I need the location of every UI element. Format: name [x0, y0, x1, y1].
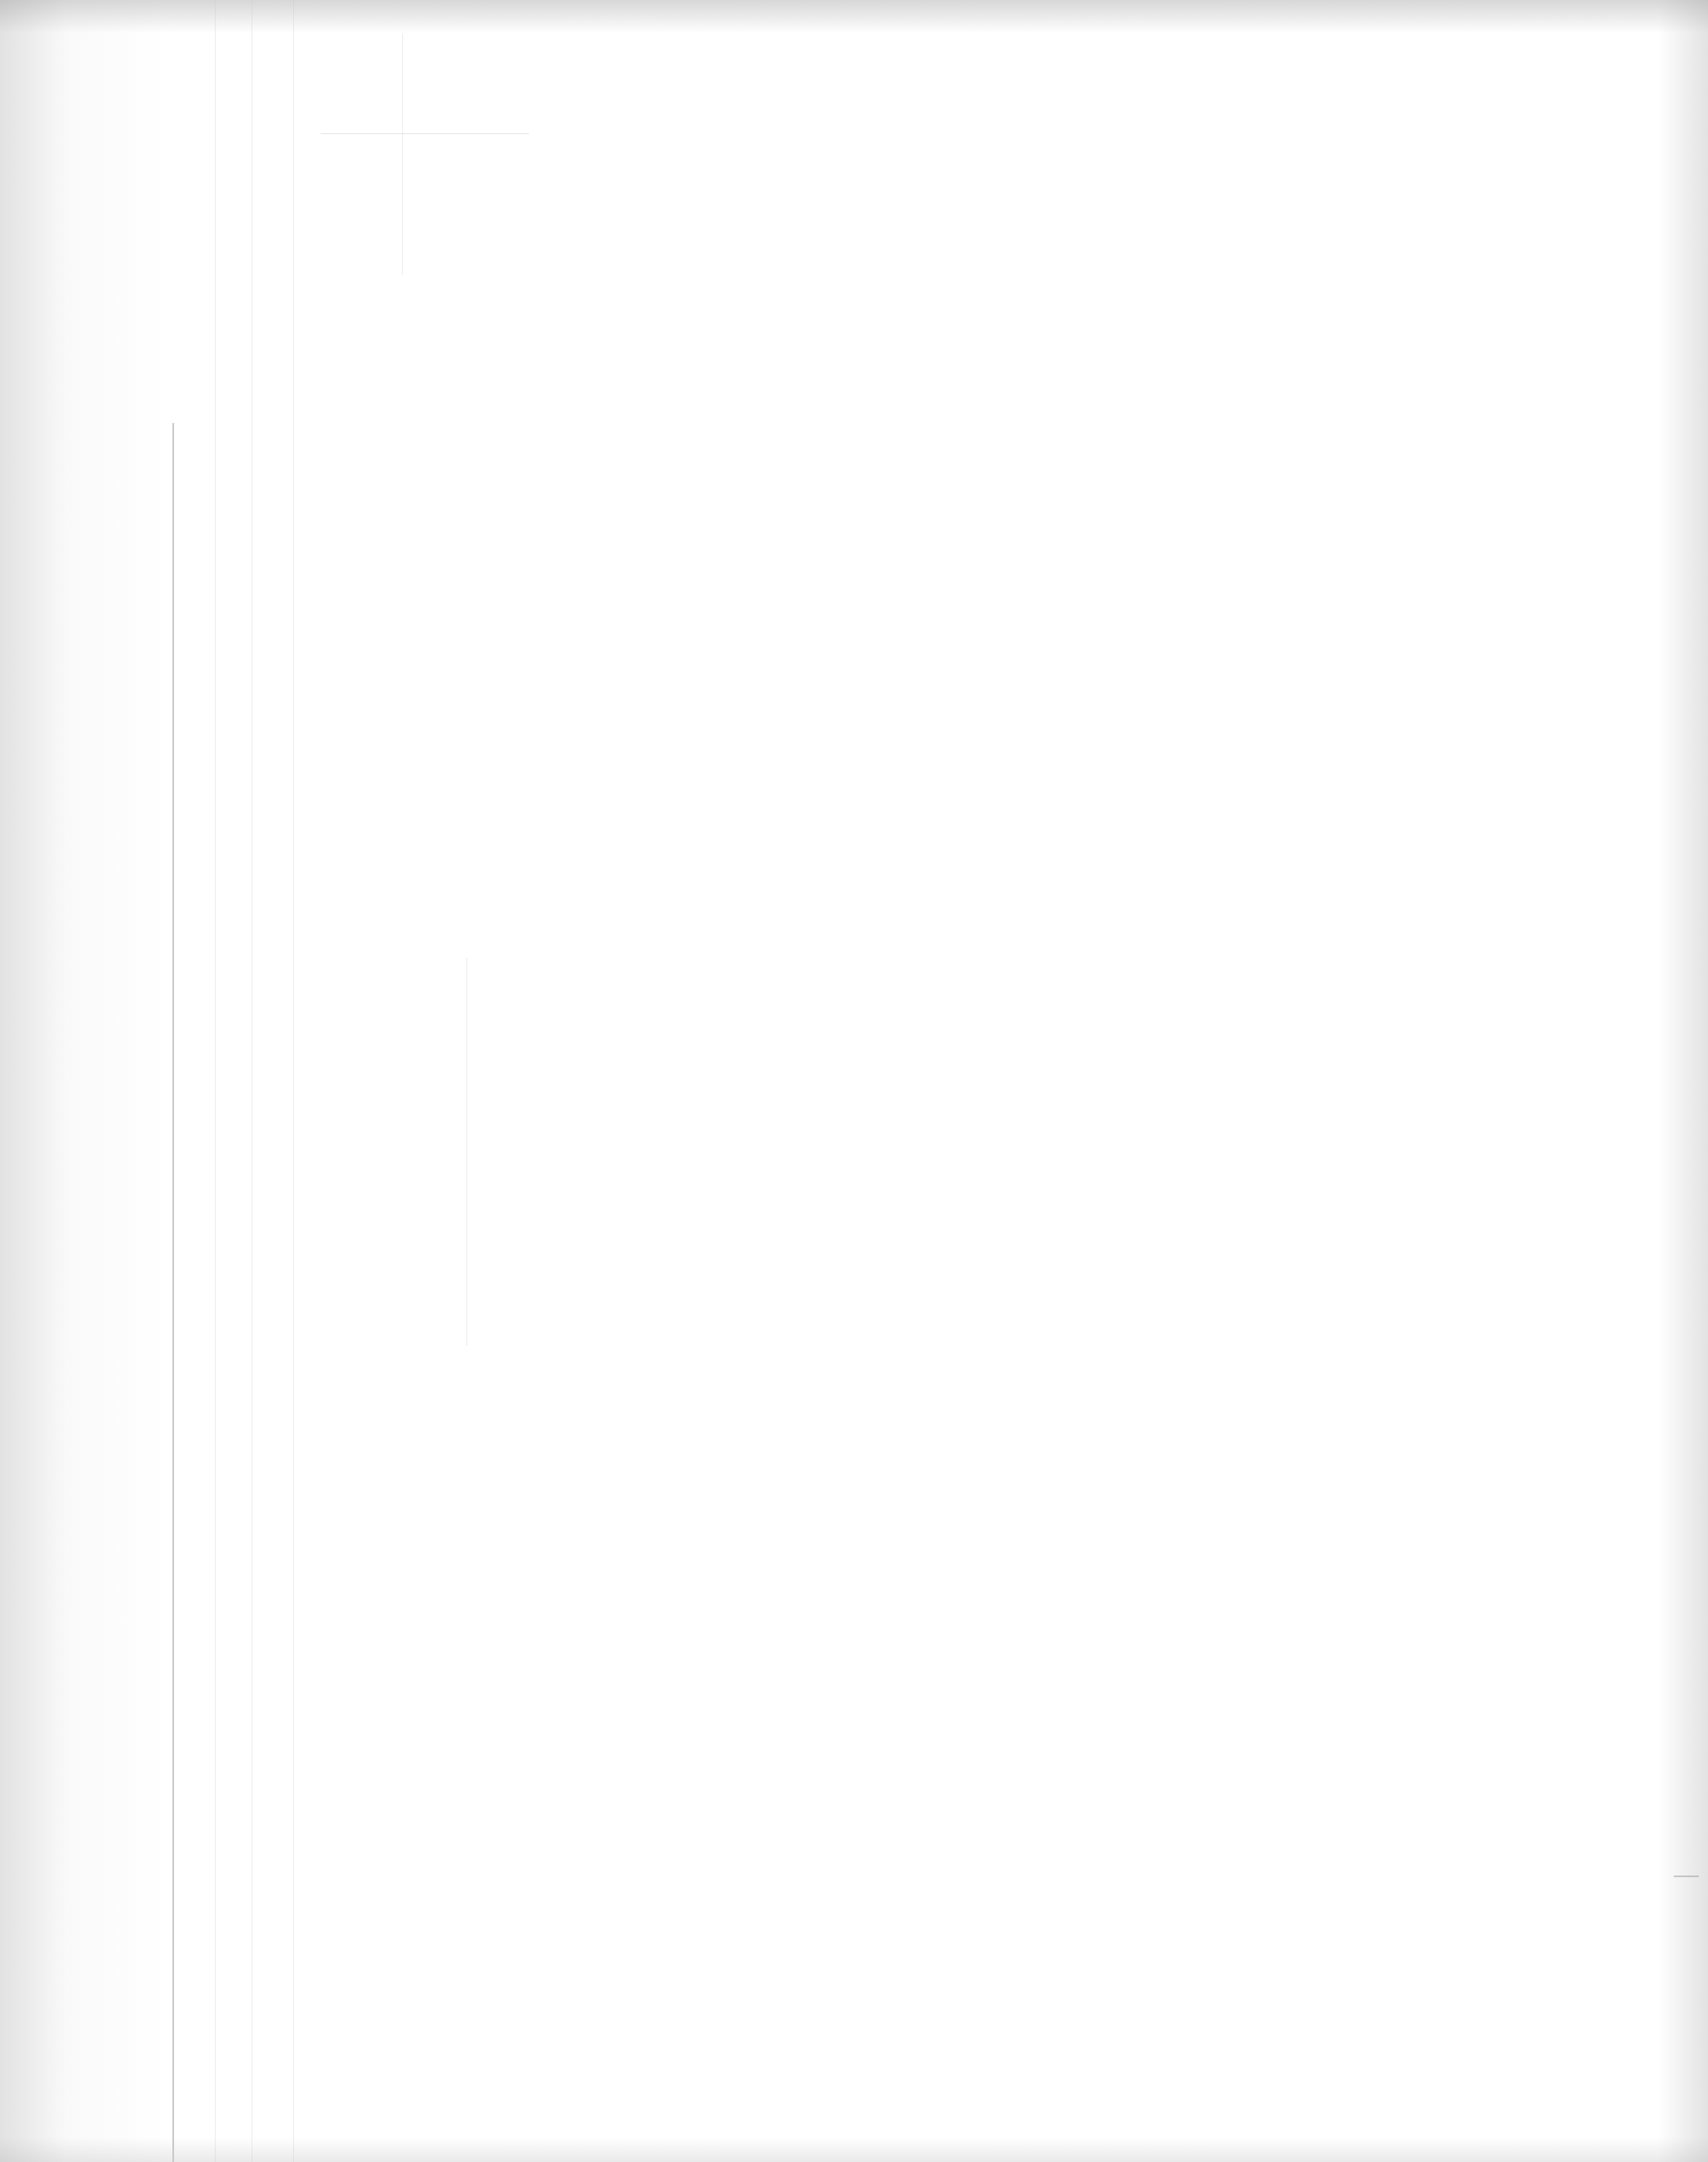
scan-streak [215, 0, 216, 2162]
scan-edge-top-shading [0, 0, 1708, 33]
scan-streak [293, 0, 294, 2162]
scan-smudge [1674, 1876, 1699, 1877]
margin-rule-line [172, 423, 174, 2162]
scan-streak [466, 958, 467, 1346]
scan-edge-left-shading [0, 0, 167, 2162]
scan-smudge [321, 133, 529, 134]
scan-streak [251, 0, 252, 2162]
scan-smudge [402, 33, 403, 275]
scan-edge-right-shading [1658, 0, 1708, 2162]
blank-scanned-page [0, 0, 1708, 2162]
scan-edge-bottom-shading [0, 2137, 1708, 2162]
